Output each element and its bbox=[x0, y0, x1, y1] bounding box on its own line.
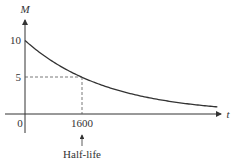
y-tick-5: 5 bbox=[16, 71, 22, 83]
x-tick-1600: 1600 bbox=[71, 117, 94, 129]
origin-label: 0 bbox=[17, 117, 23, 129]
y-axis-label: M bbox=[19, 3, 30, 15]
half-life-chart: M t 10 5 0 1600 Half-life bbox=[0, 0, 233, 161]
y-tick-10: 10 bbox=[10, 34, 22, 46]
x-axis-label: t bbox=[226, 108, 230, 120]
half-life-annotation: Half-life bbox=[63, 148, 101, 160]
decay-curve bbox=[25, 41, 217, 107]
